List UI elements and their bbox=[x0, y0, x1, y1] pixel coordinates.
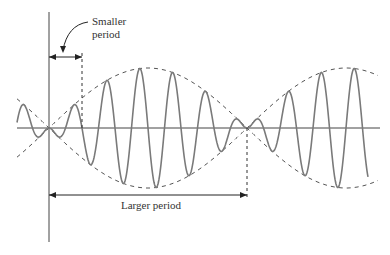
lower-envelope bbox=[17, 128, 378, 188]
smaller-period-annotation: Smaller period bbox=[49, 15, 127, 128]
smaller-period-label: Smaller bbox=[92, 15, 127, 27]
larger-period-label: Larger period bbox=[121, 199, 181, 211]
larger-period-annotation: Larger period bbox=[49, 128, 247, 211]
pointer-arrow bbox=[63, 22, 88, 50]
beats-diagram: Smaller period Larger period bbox=[0, 0, 390, 255]
smaller-period-label-2: period bbox=[92, 28, 121, 40]
